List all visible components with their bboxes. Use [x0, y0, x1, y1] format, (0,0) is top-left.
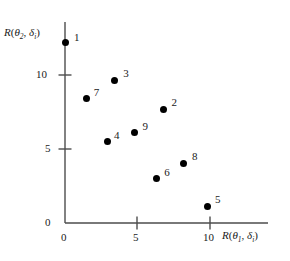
data-point-4 — [104, 138, 111, 145]
x-axis-title: R(θ1, δi) — [222, 229, 258, 244]
data-point-label-8: 8 — [192, 150, 198, 162]
data-point-label-4: 4 — [114, 129, 120, 141]
scatter-plot-figure: 10 5 0 0 5 10 R(θ2, δi) R(θ1, δi) 123456… — [0, 0, 290, 261]
data-point-label-7: 7 — [94, 86, 100, 98]
data-point-label-9: 9 — [143, 120, 149, 132]
data-point-label-6: 6 — [164, 166, 170, 178]
x-tick-label-5: 5 — [133, 231, 139, 243]
data-point-2 — [160, 106, 167, 113]
data-point-label-1: 1 — [74, 31, 80, 43]
data-point-label-2: 2 — [172, 96, 178, 108]
data-point-label-3: 3 — [123, 67, 129, 79]
y-axis-title-close: ) — [36, 26, 40, 38]
y-axis-title: R(θ2, δi) — [4, 26, 40, 41]
x-tick-label-10: 10 — [203, 231, 214, 243]
y-tick-label-0: 0 — [45, 216, 51, 228]
y-tick-label-10: 10 — [36, 68, 47, 80]
data-point-6 — [153, 175, 160, 182]
x-axis-title-fn: R — [222, 229, 229, 241]
y-tick-label-5: 5 — [45, 142, 51, 154]
y-axis-title-fn: R — [4, 26, 11, 38]
x-tick-label-0: 0 — [61, 231, 67, 243]
data-point-1 — [62, 39, 69, 46]
data-point-label-5: 5 — [215, 193, 221, 205]
x-axis-title-close: ) — [254, 229, 258, 241]
data-point-5 — [204, 203, 211, 210]
